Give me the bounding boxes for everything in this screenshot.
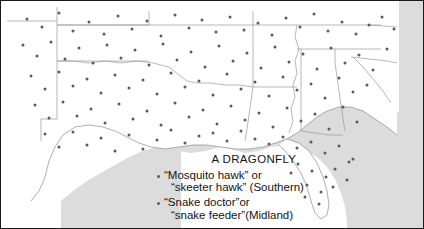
informant-dot [62,101,65,104]
informant-dot [88,21,91,24]
informant-dot [300,120,303,123]
informant-dot [260,67,263,70]
informant-dot [202,109,205,112]
informant-dot [72,131,75,134]
informant-dot [218,45,221,48]
informant-dot [204,66,207,69]
informant-dot [324,97,327,100]
informant-dot [226,140,229,143]
informant-dot [160,35,163,38]
informant-dot [272,126,275,129]
informant-dot [358,54,361,57]
informant-dot [72,85,75,88]
informant-dot [240,88,243,91]
informant-dot [316,68,319,71]
legend-entry-midland: “Snake doctor”or “snake feeder”(Midland) [151,196,331,221]
informant-dot [174,14,177,17]
informant-dot [120,57,123,60]
informant-dot [36,55,39,58]
informant-dot [48,117,51,120]
informant-dot [170,129,173,132]
informant-dot [176,59,179,62]
informant-dot [86,78,89,81]
informant-dot [201,19,204,22]
informant-dot [142,79,145,82]
informant-dot [212,94,215,97]
informant-dot [114,150,117,153]
informant-dot [131,28,134,31]
informant-dot [352,91,355,94]
informant-dot [288,61,291,64]
informant-dot [346,179,349,182]
informant-dot [368,24,371,27]
informant-dot [160,124,163,127]
informant-dot [372,69,375,72]
informant-dot [41,26,44,29]
informant-dot [332,186,335,189]
informant-dot [310,83,313,86]
informant-dot [229,16,232,19]
informant-dot [313,13,316,16]
legend-entry-southern-line2: “skeeter hawk” (Southern) [164,181,304,193]
informant-dot [258,112,261,115]
legend-entry-midland-line2: “snake feeder”(Midland) [164,209,293,221]
informant-dot [381,16,384,19]
informant-dot [148,64,151,67]
legend-title: A DRAGONFLY [151,153,331,166]
informant-dot [314,113,317,116]
informant-dot [338,145,341,148]
informant-dot [30,75,33,78]
informant-dot [134,49,137,52]
informant-dot [356,121,359,124]
legend-entry-midland-line1: “Snake doctor”or [164,196,250,208]
informant-dot [156,139,159,142]
informant-dot [64,58,67,61]
informant-dot [296,89,299,92]
informant-dot [184,86,187,89]
informant-dot [271,34,274,37]
informant-dot [92,62,95,65]
informant-dot [156,93,159,96]
informant-dot [198,135,201,138]
informant-dot [128,134,131,137]
informant-dot [268,95,271,98]
informant-dot [254,81,257,84]
informant-dot [184,142,187,145]
informant-dot [174,102,177,105]
informant-dot [86,144,89,147]
informant-dot [142,148,145,151]
informant-dot [76,115,79,118]
informant-dot [146,110,149,113]
informant-dot [274,46,277,49]
informant-dot [100,92,103,95]
informant-dot [246,52,249,55]
informant-dot [257,22,260,25]
informant-dot [285,17,288,20]
informant-dot [243,29,246,32]
informant-dot [282,136,285,139]
informant-dot [34,104,37,107]
dialect-map-figure: A DRAGONFLY “Mosquito hawk” or “skeeter … [0,0,424,229]
informant-dot [58,146,61,149]
informant-dot [50,41,53,44]
informant-dot [254,138,257,141]
informant-dot [216,123,219,126]
dot-marker-icon [157,202,160,205]
informant-dot [114,74,117,77]
informant-dot [342,106,345,109]
informant-dot [106,44,109,47]
informant-dot [146,20,149,23]
informant-dot [232,60,235,63]
informant-dot [58,12,61,15]
informant-dot [215,31,218,34]
informant-dot [244,119,247,122]
informant-dot [162,43,165,46]
informant-dot [103,33,106,36]
informant-dot [226,73,229,76]
informant-dot [334,168,337,171]
informant-dot [328,128,331,131]
informant-dot [352,158,355,161]
informant-dot [190,51,193,54]
informant-dot [188,116,191,119]
informant-dot [22,44,25,47]
